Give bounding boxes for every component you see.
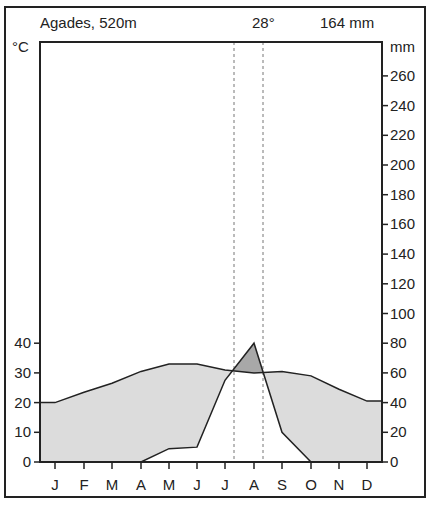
right-axis-tick-label: 140: [390, 245, 415, 262]
right-axis-tick-label: 40: [390, 394, 407, 411]
right-axis-tick-label: 20: [390, 423, 407, 440]
left-axis-tick-label: 20: [14, 394, 31, 411]
right-axis-tick-label: 200: [390, 156, 415, 173]
right-axis-tick-label: 60: [390, 364, 407, 381]
right-axis-tick-label: 80: [390, 334, 407, 351]
month-label: N: [334, 476, 345, 493]
month-label: A: [249, 476, 259, 493]
right-axis-tick-label: 120: [390, 275, 415, 292]
right-axis-tick-label: 180: [390, 186, 415, 203]
arid-area: [40, 343, 382, 462]
month-label: J: [221, 476, 229, 493]
month-label: F: [79, 476, 88, 493]
month-label: D: [362, 476, 373, 493]
left-axis-tick-label: 10: [14, 423, 31, 440]
month-label: M: [163, 476, 176, 493]
right-axis-tick-label: 0: [390, 453, 398, 470]
right-axis-tick-label: 240: [390, 97, 415, 114]
left-axis-tick-label: 30: [14, 364, 31, 381]
month-label: A: [136, 476, 146, 493]
climate-chart: 0102030400204060801001201401601802002202…: [0, 0, 432, 511]
month-label: M: [106, 476, 119, 493]
month-label: J: [51, 476, 59, 493]
right-axis-tick-label: 160: [390, 215, 415, 232]
month-label: O: [305, 476, 317, 493]
right-axis-tick-label: 220: [390, 126, 415, 143]
month-label: J: [193, 476, 201, 493]
left-axis-tick-label: 40: [14, 334, 31, 351]
left-axis-tick-label: 0: [23, 453, 31, 470]
right-axis-tick-label: 260: [390, 67, 415, 84]
right-axis-tick-label: 100: [390, 305, 415, 322]
month-label: S: [277, 476, 287, 493]
